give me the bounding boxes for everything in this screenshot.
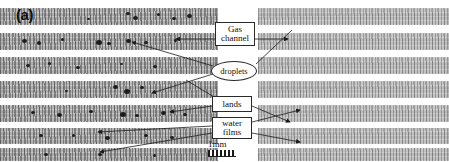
- scale-bar-label: 1mm: [208, 140, 236, 149]
- callout-gas-channel: Gas channel: [215, 22, 255, 46]
- droplet-cluster: [0, 105, 218, 122]
- gas-channel-band: [258, 33, 449, 50]
- scale-bar: 1mm: [208, 140, 236, 157]
- callout-droplets-label: droplets: [220, 66, 247, 76]
- droplet-cluster: [0, 33, 218, 50]
- gas-channel-band: [0, 128, 218, 144]
- callout-lands: lands: [212, 96, 252, 112]
- gas-channel-band: [258, 81, 449, 98]
- panel-label-a: (a): [16, 6, 33, 23]
- droplet-cluster: [0, 57, 218, 74]
- gas-channel-band: [258, 148, 449, 161]
- droplet-cluster: [0, 148, 218, 161]
- callout-droplets: droplets: [211, 61, 257, 81]
- gas-channel-band: [258, 57, 449, 74]
- gas-channel-band: [0, 105, 218, 122]
- panel-a: (a): [0, 0, 218, 162]
- droplet-cluster: [0, 81, 218, 98]
- droplet-cluster: [0, 128, 218, 144]
- gas-channel-band: [258, 105, 449, 122]
- gas-channel-band: [0, 148, 218, 161]
- panel-b: (b): [258, 0, 449, 162]
- callout-lands-label: lands: [223, 100, 242, 109]
- callout-water-films: water films: [212, 117, 252, 139]
- figure-canvas: (a) (b): [0, 0, 449, 162]
- callout-gas-channel-label: Gas channel: [218, 25, 252, 43]
- gas-channel-band: [258, 8, 449, 25]
- gas-channel-band: [0, 33, 218, 50]
- scale-bar-graphic: [208, 150, 236, 157]
- gas-channel-band: [0, 57, 218, 74]
- gas-channel-band: [0, 81, 218, 98]
- gas-channel-band: [258, 128, 449, 144]
- callout-water-films-label: water films: [215, 119, 249, 137]
